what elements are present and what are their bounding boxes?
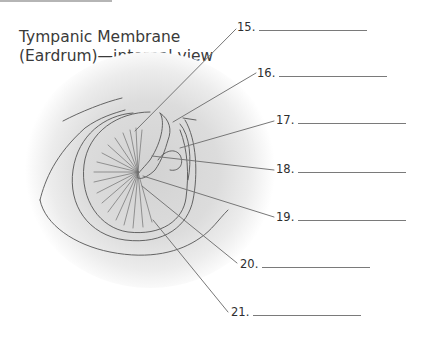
- label-16: 16.: [257, 66, 387, 80]
- label-15: 15.: [237, 20, 367, 34]
- label-number: 17.: [276, 113, 294, 127]
- label-number: 15.: [237, 20, 255, 34]
- answer-blank-21[interactable]: [253, 315, 361, 316]
- label-21: 21.: [231, 305, 361, 319]
- label-number: 19.: [276, 210, 294, 224]
- label-18: 18.: [276, 162, 406, 176]
- answer-blank-20[interactable]: [262, 267, 370, 268]
- shadow-halo: [22, 52, 278, 288]
- label-number: 21.: [231, 305, 249, 319]
- answer-blank-18[interactable]: [298, 172, 406, 173]
- label-number: 18.: [276, 162, 294, 176]
- label-number: 16.: [257, 66, 275, 80]
- label-20: 20.: [240, 257, 370, 271]
- label-number: 20.: [240, 257, 258, 271]
- label-17: 17.: [276, 113, 406, 127]
- answer-blank-15[interactable]: [259, 30, 367, 31]
- label-19: 19.: [276, 210, 406, 224]
- answer-blank-16[interactable]: [279, 76, 387, 77]
- answer-blank-19[interactable]: [298, 220, 406, 221]
- answer-blank-17[interactable]: [298, 123, 406, 124]
